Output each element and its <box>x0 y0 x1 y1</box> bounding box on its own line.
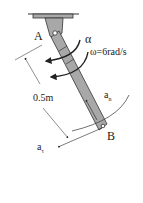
label-b: B <box>107 130 115 142</box>
label-at: aτ <box>37 142 44 152</box>
label-length: 0.5m <box>33 93 53 103</box>
at-sub: τ <box>41 148 43 154</box>
ceiling-support <box>28 14 79 18</box>
label-an: an <box>104 90 111 100</box>
pin-b <box>101 124 105 128</box>
pin-a <box>53 31 57 35</box>
label-omega: ω=6rad/s <box>90 47 127 57</box>
label-a: A <box>34 30 43 42</box>
bar-diagram <box>0 0 143 203</box>
label-alpha: α <box>85 33 91 45</box>
tangential-accel-arrow <box>58 128 102 147</box>
